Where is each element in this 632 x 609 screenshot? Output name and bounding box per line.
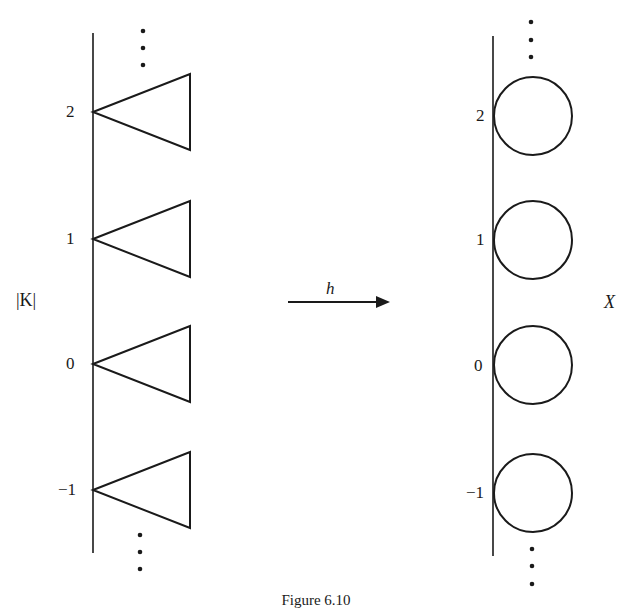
right-level-label: 0 xyxy=(474,357,483,374)
map-arrow-head-icon xyxy=(376,296,390,308)
circle-level-1 xyxy=(494,201,572,279)
right-bottom-ellipsis-icon xyxy=(530,547,535,587)
triangle-level-0 xyxy=(93,326,190,402)
left-level-label: 2 xyxy=(66,103,75,120)
right-level-label: −1 xyxy=(466,484,484,501)
map-label: h xyxy=(326,280,335,297)
left-space-label: |K| xyxy=(16,291,36,309)
right-space-label: X xyxy=(604,293,615,311)
triangle-level-minus-1 xyxy=(93,452,190,528)
abs-bar-close: | xyxy=(33,290,37,310)
right-level-label: 1 xyxy=(476,231,485,248)
left-bottom-ellipsis-icon xyxy=(138,533,143,572)
k-symbol: K xyxy=(20,290,33,310)
left-level-label: 1 xyxy=(66,230,75,247)
circle-level-minus-1 xyxy=(494,454,572,532)
right-top-ellipsis-icon xyxy=(529,20,534,60)
circle-level-0 xyxy=(494,326,572,404)
triangle-level-2 xyxy=(93,74,190,150)
left-top-ellipsis-icon xyxy=(141,29,146,68)
circle-level-2 xyxy=(494,77,572,155)
triangle-level-1 xyxy=(93,201,190,277)
figure-caption: Figure 6.10 xyxy=(0,592,632,609)
left-level-label: 0 xyxy=(66,355,75,372)
left-level-label: −1 xyxy=(58,481,76,498)
right-level-label: 2 xyxy=(476,107,485,124)
